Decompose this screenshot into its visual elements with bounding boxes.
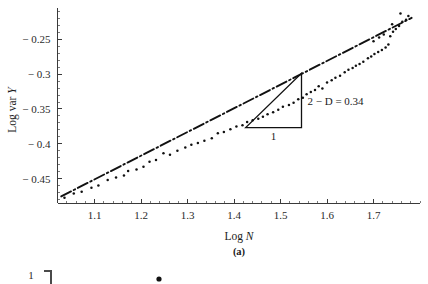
data-point bbox=[310, 91, 313, 94]
y-tick-label: − 0.25 bbox=[22, 33, 51, 45]
y-tick-label: − 0.4 bbox=[28, 138, 51, 150]
x-tick-label: 1.7 bbox=[367, 209, 381, 221]
data-point bbox=[377, 51, 380, 54]
x-tick-label: 1.2 bbox=[134, 209, 148, 221]
data-point bbox=[288, 104, 291, 107]
data-point bbox=[373, 53, 376, 56]
data-point bbox=[123, 174, 126, 177]
data-point bbox=[229, 128, 232, 131]
x-tick-label: 1.5 bbox=[274, 209, 288, 221]
data-point bbox=[384, 46, 387, 49]
data-point bbox=[367, 57, 370, 60]
data-point bbox=[257, 117, 260, 120]
x-tick-label: 1.3 bbox=[181, 209, 195, 221]
data-point bbox=[334, 77, 337, 80]
data-point bbox=[391, 23, 394, 26]
data-point bbox=[314, 89, 317, 92]
data-point bbox=[387, 43, 390, 46]
data-point bbox=[362, 61, 365, 64]
slope-annotation-group: 2 − D = 0.341 bbox=[246, 73, 364, 141]
data-point bbox=[63, 197, 66, 200]
slope-value-label: 2 − D = 0.34 bbox=[308, 95, 365, 107]
data-point bbox=[321, 87, 324, 90]
data-point bbox=[277, 109, 280, 112]
panel-label: (a) bbox=[233, 246, 246, 258]
data-point bbox=[389, 35, 392, 38]
data-point bbox=[127, 170, 130, 173]
data-point bbox=[347, 69, 350, 72]
y-tick-label: − 0.35 bbox=[22, 103, 51, 115]
y-tick-label: − 0.45 bbox=[22, 173, 51, 185]
data-point bbox=[405, 18, 408, 21]
data-point bbox=[90, 187, 93, 190]
next-figure-data-point bbox=[156, 276, 161, 281]
data-point bbox=[73, 192, 76, 195]
data-point bbox=[282, 106, 285, 109]
x-tick-label: 1.4 bbox=[227, 209, 241, 221]
data-point bbox=[383, 33, 386, 36]
data-point bbox=[142, 166, 145, 169]
data-point bbox=[351, 67, 354, 70]
data-point bbox=[184, 146, 187, 149]
y-tick-label: − 0.3 bbox=[28, 68, 51, 80]
data-point bbox=[80, 191, 83, 194]
next-figure-axis-corner bbox=[44, 271, 51, 284]
data-point bbox=[358, 63, 361, 66]
data-point bbox=[115, 176, 118, 179]
data-point bbox=[401, 21, 404, 24]
next-figure-fragment: 1 bbox=[28, 269, 161, 284]
next-figure-tick-label: 1 bbox=[28, 269, 34, 281]
data-point bbox=[135, 168, 138, 171]
data-point bbox=[262, 116, 265, 119]
data-point bbox=[169, 154, 172, 157]
data-point bbox=[97, 184, 100, 187]
data-point bbox=[197, 142, 200, 145]
data-point bbox=[297, 98, 300, 101]
data-point bbox=[162, 152, 165, 155]
data-point bbox=[343, 71, 346, 74]
data-point bbox=[399, 12, 402, 15]
x-tick-label: 1.1 bbox=[88, 209, 102, 221]
data-point bbox=[339, 74, 342, 77]
data-point bbox=[246, 121, 249, 124]
figure-container: 1.11.21.31.41.51.61.7− 0.25− 0.3− 0.35− … bbox=[0, 0, 428, 284]
data-point bbox=[381, 49, 384, 52]
data-point bbox=[266, 113, 269, 116]
data-point bbox=[372, 40, 375, 43]
data-point bbox=[398, 25, 401, 28]
x-axis-title: Log N bbox=[224, 230, 254, 243]
data-point bbox=[155, 159, 158, 162]
y-axis-title: Log var Y bbox=[6, 86, 19, 133]
data-point bbox=[223, 131, 226, 134]
data-point bbox=[317, 85, 320, 88]
data-point bbox=[370, 55, 373, 58]
data-point bbox=[235, 125, 238, 128]
data-point bbox=[378, 36, 381, 39]
fit-line-group bbox=[61, 18, 411, 197]
data-point bbox=[355, 65, 358, 68]
data-point bbox=[211, 137, 214, 140]
data-point bbox=[241, 124, 244, 127]
data-point bbox=[176, 149, 179, 152]
data-point bbox=[407, 15, 410, 18]
x-tick-label: 1.6 bbox=[320, 209, 334, 221]
data-point bbox=[203, 139, 206, 142]
data-point bbox=[395, 28, 398, 31]
data-point bbox=[392, 31, 395, 34]
data-point bbox=[217, 132, 220, 135]
triangle-base-label: 1 bbox=[271, 130, 277, 142]
major-tick-group bbox=[58, 39, 374, 203]
data-point bbox=[292, 101, 295, 104]
scatter-plot-chart: 1.11.21.31.41.51.61.7− 0.25− 0.3− 0.35− … bbox=[0, 0, 428, 284]
regression-fit-line bbox=[61, 18, 411, 197]
data-point bbox=[272, 111, 275, 114]
slope-triangle bbox=[246, 73, 302, 127]
data-point bbox=[330, 79, 333, 82]
data-point bbox=[106, 179, 109, 182]
data-point bbox=[148, 161, 151, 164]
data-point bbox=[326, 81, 329, 84]
data-point bbox=[190, 144, 193, 147]
